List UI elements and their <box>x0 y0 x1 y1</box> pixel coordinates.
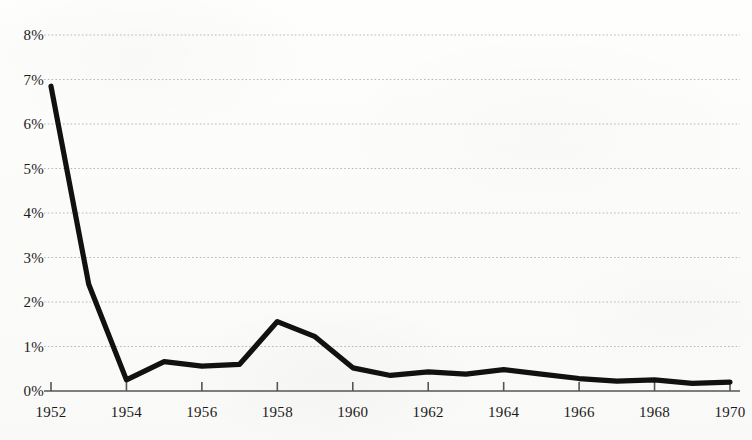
x-axis-tick-label: 1962 <box>413 404 444 421</box>
x-axis-label-group: 1952195419561958196019621964196619681970 <box>0 0 752 440</box>
x-axis-tick-label: 1954 <box>111 404 142 421</box>
x-axis-tick-label: 1964 <box>488 404 519 421</box>
x-axis-tick-label: 1952 <box>35 404 66 421</box>
x-axis-tick-label: 1968 <box>639 404 670 421</box>
chart-page: 0%1%2%3%4%5%6%7%8% 195219541956195819601… <box>0 0 752 440</box>
x-axis-tick-label: 1970 <box>714 404 745 421</box>
x-axis-tick-label: 1956 <box>186 404 217 421</box>
x-axis-tick-label: 1966 <box>564 404 595 421</box>
x-axis-tick-label: 1958 <box>262 404 293 421</box>
x-axis-tick-label: 1960 <box>337 404 368 421</box>
